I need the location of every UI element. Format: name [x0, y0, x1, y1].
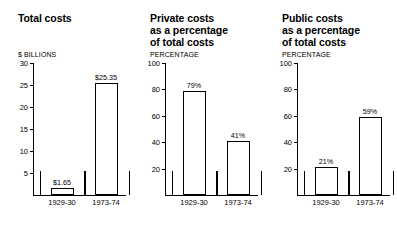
x-axis-category-label: 1973-74 — [208, 198, 268, 207]
x-axis-line — [33, 195, 126, 196]
bar-value-label: $1.65 — [37, 178, 87, 187]
bar — [359, 117, 382, 195]
x-axis-line — [297, 195, 390, 196]
y-axis-tick-label: 15 — [4, 125, 28, 134]
y-axis-tick — [294, 89, 297, 90]
x-axis-category-tick — [40, 171, 41, 195]
bar-value-label: 21% — [301, 157, 351, 166]
x-axis-category-tick — [216, 171, 217, 195]
y-axis-tick-label: 60 — [136, 112, 160, 121]
y-axis-tick-label: 25 — [4, 81, 28, 90]
chart-panel-group: Total costs $ BILLIONS 30252015105$1.651… — [0, 0, 397, 233]
x-axis-category-tick — [129, 171, 130, 195]
y-axis-tick-label: 20 — [4, 103, 28, 112]
chart-panel-total-costs: Total costs $ BILLIONS 30252015105$1.651… — [0, 0, 132, 233]
bar-value-label: 79% — [169, 81, 219, 90]
bar — [315, 167, 338, 195]
y-axis-tick-label: 40 — [136, 138, 160, 147]
bar — [51, 188, 74, 195]
x-axis-category-tick — [348, 171, 349, 195]
x-axis-category-tick — [85, 171, 86, 195]
bar — [95, 83, 118, 195]
y-axis-line — [165, 63, 166, 196]
chart-panel-private-costs: Private costs as a percentage of total c… — [132, 0, 264, 233]
y-axis-tick — [162, 169, 165, 170]
y-axis-tick-label: 10 — [4, 147, 28, 156]
y-axis-tick-label: 60 — [268, 112, 292, 121]
y-axis-line — [33, 63, 34, 196]
bar — [227, 141, 250, 195]
chart-panel-public-costs: Public costs as a percentage of total co… — [264, 0, 396, 233]
y-axis-tick — [162, 116, 165, 117]
y-axis-tick — [30, 173, 33, 174]
y-axis-tick — [30, 85, 33, 86]
bar-value-label: $25.35 — [81, 73, 131, 82]
plot-area: 30252015105$1.651929-30$25.351973-74 — [18, 0, 126, 201]
y-axis-tick — [30, 129, 33, 130]
y-axis-line — [297, 63, 298, 196]
y-axis-tick — [294, 116, 297, 117]
x-axis-category-tick — [261, 171, 262, 195]
y-axis-tick-label: 5 — [4, 169, 28, 178]
y-axis-tick-label: 80 — [268, 85, 292, 94]
x-axis-category-tick — [304, 171, 305, 195]
y-axis-tick — [162, 89, 165, 90]
bar-value-label: 41% — [213, 131, 263, 140]
x-axis-category-tick — [84, 171, 85, 195]
x-axis-category-tick — [217, 171, 218, 195]
y-axis-tick — [294, 142, 297, 143]
plot-area: 1008060402021%1929-3059%1973-74 — [282, 0, 390, 201]
x-axis-line — [165, 195, 258, 196]
y-axis-tick — [30, 151, 33, 152]
y-axis-tick-label: 40 — [268, 138, 292, 147]
y-axis-tick — [30, 63, 33, 64]
y-axis-tick-label: 80 — [136, 85, 160, 94]
y-axis-tick — [162, 142, 165, 143]
y-axis-tick-label: 20 — [136, 165, 160, 174]
x-axis-category-tick — [349, 171, 350, 195]
bar — [183, 91, 206, 195]
x-axis-category-label: 1973-74 — [76, 198, 136, 207]
x-axis-category-label: 1973-74 — [340, 198, 397, 207]
y-axis-tick — [162, 63, 165, 64]
y-axis-tick — [294, 169, 297, 170]
y-axis-tick-label: 20 — [268, 165, 292, 174]
y-axis-tick-label: 100 — [136, 59, 160, 68]
plot-area: 1008060402079%1929-3041%1973-74 — [150, 0, 258, 201]
bar-value-label: 59% — [345, 107, 395, 116]
y-axis-tick — [294, 63, 297, 64]
y-axis-tick — [30, 107, 33, 108]
x-axis-category-tick — [172, 171, 173, 195]
x-axis-category-tick — [393, 171, 394, 195]
y-axis-tick-label: 100 — [268, 59, 292, 68]
y-axis-tick-label: 30 — [4, 59, 28, 68]
